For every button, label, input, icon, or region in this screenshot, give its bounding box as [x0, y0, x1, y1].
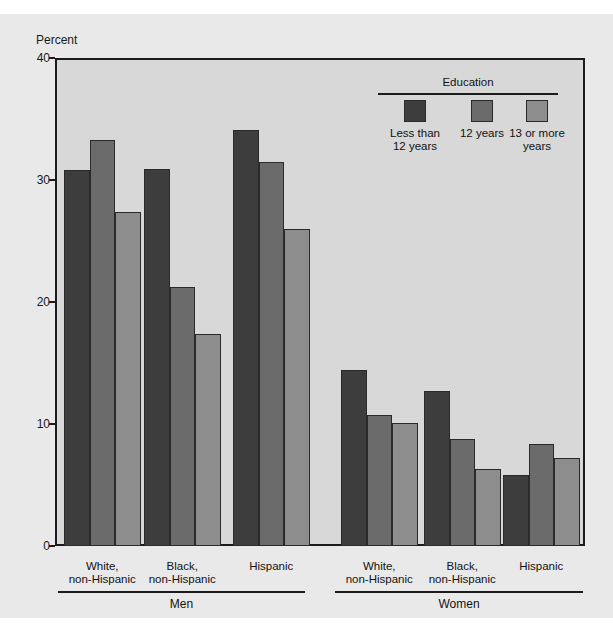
- y-axis-tick-labels: 010203040: [14, 58, 50, 546]
- legend-label-line1: Less than: [390, 127, 440, 140]
- group-label: Men: [170, 597, 193, 611]
- y-tick-label: 30: [20, 173, 50, 187]
- legend-title: Education: [378, 76, 558, 88]
- chart-legend: Education Less than12 years12 years13 or…: [378, 76, 558, 164]
- legend-swatch: [471, 100, 493, 122]
- bar: [475, 469, 501, 546]
- y-tick-mark: [49, 179, 55, 181]
- bar: [195, 334, 221, 546]
- x-category-label: White,non-Hispanic: [346, 560, 413, 586]
- y-tick-label: 0: [20, 539, 50, 553]
- x-category-label-line2: non-Hispanic: [149, 573, 216, 586]
- y-tick-label: 20: [20, 295, 50, 309]
- bar: [233, 130, 259, 546]
- x-category-label-line1: Black,: [149, 560, 216, 573]
- bar: [529, 444, 555, 546]
- bar: [64, 170, 90, 546]
- x-category-label-line1: White,: [346, 560, 413, 573]
- y-tick-label: 40: [20, 51, 50, 65]
- x-category-label: Black,non-Hispanic: [149, 560, 216, 586]
- bar: [424, 391, 450, 546]
- x-category-label: Hispanic: [519, 560, 563, 573]
- x-category-label-line2: non-Hispanic: [346, 573, 413, 586]
- x-category-label-line2: non-Hispanic: [69, 573, 136, 586]
- group-divider-rule: [58, 591, 305, 593]
- legend-label-line1: 13 or more: [509, 127, 565, 140]
- group-divider-rule: [335, 591, 583, 593]
- bar: [259, 162, 285, 546]
- bar: [392, 423, 418, 546]
- legend-label: Less than12 years: [390, 127, 440, 152]
- x-category-label-line2: non-Hispanic: [429, 573, 496, 586]
- bar: [503, 475, 529, 546]
- bar: [144, 169, 170, 546]
- legend-label: 12 years: [460, 127, 504, 140]
- legend-label-line1: 12 years: [460, 127, 504, 140]
- bar: [367, 415, 393, 546]
- bar: [115, 212, 141, 546]
- x-category-label-line1: Hispanic: [519, 560, 563, 573]
- bar: [554, 458, 580, 546]
- y-tick-label: 10: [20, 417, 50, 431]
- y-axis-title: Percent: [36, 33, 77, 47]
- bar: [90, 140, 116, 546]
- legend-swatch: [526, 100, 548, 122]
- bar: [341, 370, 367, 546]
- bar: [450, 439, 476, 546]
- y-tick-mark: [49, 57, 55, 59]
- x-category-label-line1: Hispanic: [249, 560, 293, 573]
- x-category-label-line1: Black,: [429, 560, 496, 573]
- y-tick-mark: [49, 545, 55, 547]
- legend-label-line2: years: [509, 140, 565, 153]
- y-tick-mark: [49, 423, 55, 425]
- x-category-label: Black,non-Hispanic: [429, 560, 496, 586]
- legend-divider: [378, 93, 558, 95]
- x-category-label-line1: White,: [69, 560, 136, 573]
- bar: [284, 229, 310, 546]
- y-tick-mark: [49, 301, 55, 303]
- group-label: Women: [438, 597, 479, 611]
- legend-swatch: [404, 100, 426, 122]
- bar: [170, 287, 196, 546]
- legend-label: 13 or moreyears: [509, 127, 565, 152]
- x-category-label: Hispanic: [249, 560, 293, 573]
- x-category-label: White,non-Hispanic: [69, 560, 136, 586]
- chart-figure: Percent 010203040 White,non-HispanicBlac…: [0, 0, 613, 633]
- legend-label-line2: 12 years: [390, 140, 440, 153]
